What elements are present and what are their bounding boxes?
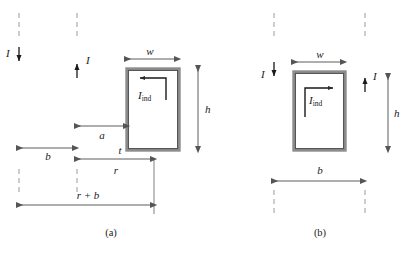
dim-label-r-plus-b: r + b [77,189,100,201]
dim-label-r: r [114,164,119,176]
background [0,0,411,258]
dim-label-b: b [317,164,323,176]
dim-label-w: w [316,48,324,60]
dim-label-h: h [205,103,211,115]
dim-label-a: a [99,129,105,141]
panel-b-caption: (b) [314,227,327,239]
physics-figure: I I Iind w h [0,0,411,258]
induced-current-subscript: ind [313,99,323,108]
induced-current-subscript: ind [142,94,152,103]
figure-canvas: I I Iind w h [0,0,411,258]
dim-label-b: b [45,150,51,162]
panel-a-caption: (a) [105,227,117,239]
dim-label-w: w [146,45,154,57]
dim-label-h: h [394,107,400,119]
